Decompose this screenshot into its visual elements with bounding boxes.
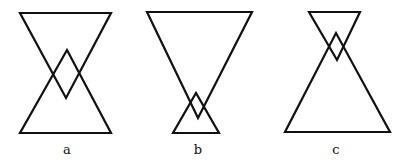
figure-b-label: b <box>194 142 202 157</box>
figure-c-label: c <box>332 142 339 157</box>
triangle-figures: a b c <box>0 0 409 163</box>
figure-a-label: a <box>63 142 71 157</box>
figure-c: c <box>285 12 390 157</box>
figure-b-top-triangle <box>147 12 252 118</box>
figure-a: a <box>20 13 111 157</box>
figure-canvas: a b c <box>0 0 409 163</box>
figure-b: b <box>147 12 252 157</box>
figure-a-top-triangle <box>20 13 111 98</box>
figure-a-bottom-triangle <box>20 50 111 133</box>
figure-c-bottom-triangle <box>285 33 390 132</box>
